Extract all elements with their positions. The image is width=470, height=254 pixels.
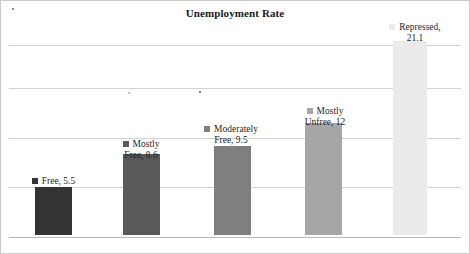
data-label-mostly-free: Mostly Free, 8.6 — [93, 128, 189, 161]
axis-baseline — [9, 237, 461, 238]
data-label-moderately-free-text: Moderately Free, 9.5 — [214, 124, 258, 145]
scan-speck — [128, 92, 130, 94]
data-label-mostly-free-text: Mostly Free, 8.6 — [124, 139, 159, 160]
plot-area: Free, 5.5 Mostly Free, 8.6 Moderately Fr… — [1, 1, 469, 253]
bar-repressed[interactable] — [393, 41, 427, 235]
legend-marker-mostly-free — [123, 141, 129, 147]
legend-marker-moderately-free — [204, 126, 210, 132]
data-label-free: Free, 5.5 — [1, 165, 106, 187]
data-label-mostly-unfree: Mostly Unfree, 12 — [277, 95, 373, 128]
data-label-moderately-free: Moderately Free, 9.5 — [179, 113, 283, 146]
chart-container: Free, 5.5 Mostly Free, 8.6 Moderately Fr… — [0, 0, 470, 254]
chart-title: Unemployment Rate — [1, 7, 469, 19]
bar-moderately-free[interactable] — [214, 146, 251, 235]
bar-mostly-free[interactable] — [123, 154, 160, 235]
data-label-repressed-text: Repressed, 21.1 — [399, 22, 440, 43]
data-label-free-text: Free, 5.5 — [42, 176, 76, 186]
scan-speck — [199, 91, 201, 93]
legend-marker-mostly-unfree — [307, 108, 313, 114]
legend-marker-free — [32, 178, 38, 184]
legend-marker-repressed — [389, 24, 395, 30]
bar-mostly-unfree[interactable] — [305, 123, 342, 235]
bar-free[interactable] — [35, 187, 72, 235]
